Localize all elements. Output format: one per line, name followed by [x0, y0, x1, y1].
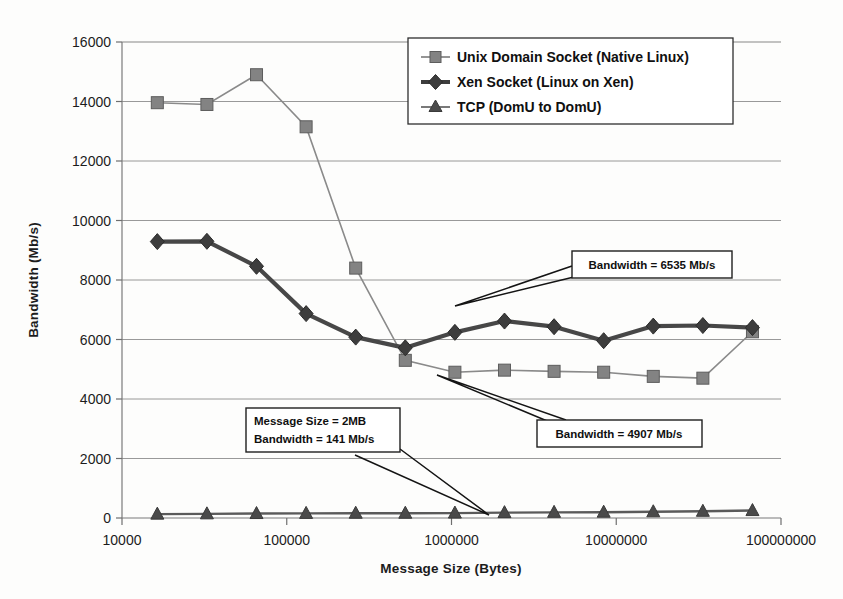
data-series-group: [150, 69, 759, 519]
x-axis-title: Message Size (Bytes): [380, 561, 521, 576]
data-point-diamond-10: [646, 318, 660, 334]
data-point-square-6: [449, 366, 461, 378]
annotation-2mb-141: Message Size = 2MB Bandwidth = 141 Mb/s: [246, 408, 400, 452]
bandwidth-vs-message-size-chart: 0200040006000800010000120001400016000 10…: [0, 0, 843, 599]
legend-marker-square-icon: [430, 52, 441, 63]
annotation-6535: Bandwidth = 6535 Mb/s: [572, 251, 732, 278]
y-axis-ticks: 0200040006000800010000120001400016000: [72, 34, 122, 526]
data-point-diamond-4: [349, 329, 363, 345]
annotation-leaders: [355, 266, 578, 515]
legend-label-xen: Xen Socket (Linux on Xen): [457, 74, 634, 90]
legend-entry-unix-domain-socket[interactable]: Unix Domain Socket (Native Linux): [421, 49, 689, 65]
data-point-square-0: [151, 97, 163, 109]
data-point-diamond-1: [200, 233, 214, 249]
x-tick-label-100000: 100000: [263, 532, 310, 548]
legend-label-tcp: TCP (DomU to DomU): [457, 99, 601, 115]
legend-label-unix: Unix Domain Socket (Native Linux): [457, 49, 689, 65]
data-point-square-2: [251, 69, 263, 81]
annotation-text-message-size: Message Size = 2MB: [254, 415, 366, 427]
data-point-square-9: [598, 366, 610, 378]
y-tick-label-12000: 12000: [72, 153, 111, 169]
chart-figure: 0200040006000800010000120001400016000 10…: [0, 0, 843, 599]
annotation-text-4907: Bandwidth = 4907 Mb/s: [556, 428, 683, 440]
data-point-diamond-0: [150, 234, 164, 250]
x-tick-label-100000000: 100000000: [746, 532, 816, 548]
leader-line-6535: [455, 266, 578, 306]
data-point-diamond-7: [497, 313, 511, 329]
y-tick-label-0: 0: [103, 510, 111, 526]
y-tick-label-2000: 2000: [80, 451, 111, 467]
data-point-diamond-6: [448, 324, 462, 340]
data-point-diamond-9: [597, 333, 611, 349]
annotation-4907: Bandwidth = 4907 Mb/s: [537, 420, 702, 447]
data-point-square-10: [647, 370, 659, 382]
data-point-diamond-8: [547, 319, 561, 335]
x-axis-ticks: 10000100000100000010000000100000000: [103, 518, 817, 548]
data-point-square-3: [300, 121, 312, 133]
x-tick-label-1000000: 1000000: [424, 532, 479, 548]
y-axis-title: Bandwidth (Mb/s): [26, 222, 41, 338]
annotation-text-6535: Bandwidth = 6535 Mb/s: [589, 259, 716, 271]
y-tick-label-10000: 10000: [72, 213, 111, 229]
data-point-square-7: [498, 364, 510, 376]
y-tick-label-6000: 6000: [80, 332, 111, 348]
x-tick-label-10000: 10000: [103, 532, 142, 548]
y-tick-label-4000: 4000: [80, 391, 111, 407]
series-triangle: [151, 504, 759, 520]
x-tick-label-10000000: 10000000: [585, 532, 648, 548]
data-point-diamond-5: [398, 340, 412, 356]
data-point-square-1: [201, 98, 213, 110]
annotation-text-bandwidth-141: Bandwidth = 141 Mb/s: [254, 433, 374, 445]
y-tick-label-14000: 14000: [72, 94, 111, 110]
chart-legend: Unix Domain Socket (Native Linux) Xen So…: [408, 38, 733, 124]
data-point-square-11: [697, 372, 709, 384]
y-tick-label-16000: 16000: [72, 34, 111, 50]
data-point-square-4: [350, 262, 362, 274]
y-tick-label-8000: 8000: [80, 272, 111, 288]
data-point-diamond-11: [696, 318, 710, 334]
data-point-square-8: [548, 365, 560, 377]
